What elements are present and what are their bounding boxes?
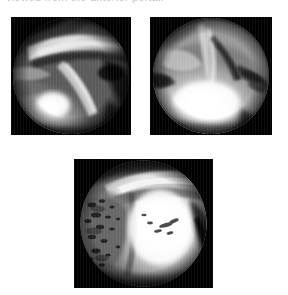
arthroscopy-image-panel-b xyxy=(150,17,272,135)
scope-field-b xyxy=(150,17,272,135)
scope-field-a xyxy=(11,17,131,135)
figure-caption-clip: viewed from the anterior portal. xyxy=(0,0,288,9)
scope-field-c xyxy=(74,159,213,288)
figure-caption-text: viewed from the anterior portal. xyxy=(6,0,164,4)
arthroscopy-image-panel-a xyxy=(11,17,131,135)
figure-root: viewed from the anterior portal. xyxy=(0,0,288,295)
arthroscopy-image-panel-c xyxy=(74,159,213,288)
